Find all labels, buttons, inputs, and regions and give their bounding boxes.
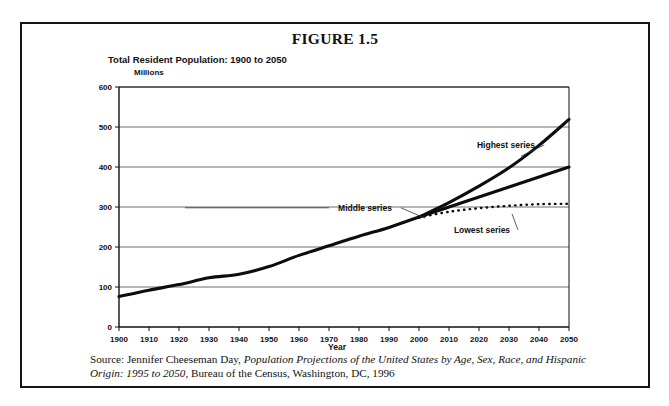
series-line-middle-series <box>419 167 569 217</box>
y-axis-tick-label: 300 <box>99 203 113 212</box>
annotation-leader-line <box>401 208 425 218</box>
annotation-highest-series: Highest series <box>477 140 535 150</box>
figure-frame: FIGURE 1.5 Total Resident Population: 19… <box>20 22 650 388</box>
source-suffix: , Bureau of the Census, Washington, DC, … <box>185 367 394 379</box>
y-axis-tick-label: 400 <box>99 163 113 172</box>
annotation-leader-line <box>512 214 518 230</box>
annotation-middle-series: Middle series <box>338 203 392 213</box>
y-axis-ticks-group: 0100200300400500600 <box>99 83 119 332</box>
annotation-lowest-series: Lowest series <box>454 225 510 235</box>
y-axis-tick-label: 500 <box>99 123 113 132</box>
y-axis-tick-label: 200 <box>99 243 113 252</box>
source-note: Source: Jennifer Cheeseman Day, Populati… <box>90 353 590 380</box>
chart-plot-area: 0100200300400500600 19001910192019301940… <box>22 24 652 390</box>
y-axis-tick-label: 0 <box>108 323 113 332</box>
line-chart-svg: 0100200300400500600 19001910192019301940… <box>22 24 652 354</box>
y-axis-tick-label: 100 <box>99 283 113 292</box>
series-annotations-group: Highest seriesMiddle seriesLowest series <box>185 140 544 235</box>
series-line-highest-series <box>419 119 569 217</box>
source-prefix: Source: Jennifer Cheeseman Day, <box>90 353 244 365</box>
gridlines-group <box>119 87 569 287</box>
series-line-historical <box>119 217 419 297</box>
y-axis-tick-label: 600 <box>99 83 113 92</box>
x-axis-title: Year <box>22 342 652 352</box>
